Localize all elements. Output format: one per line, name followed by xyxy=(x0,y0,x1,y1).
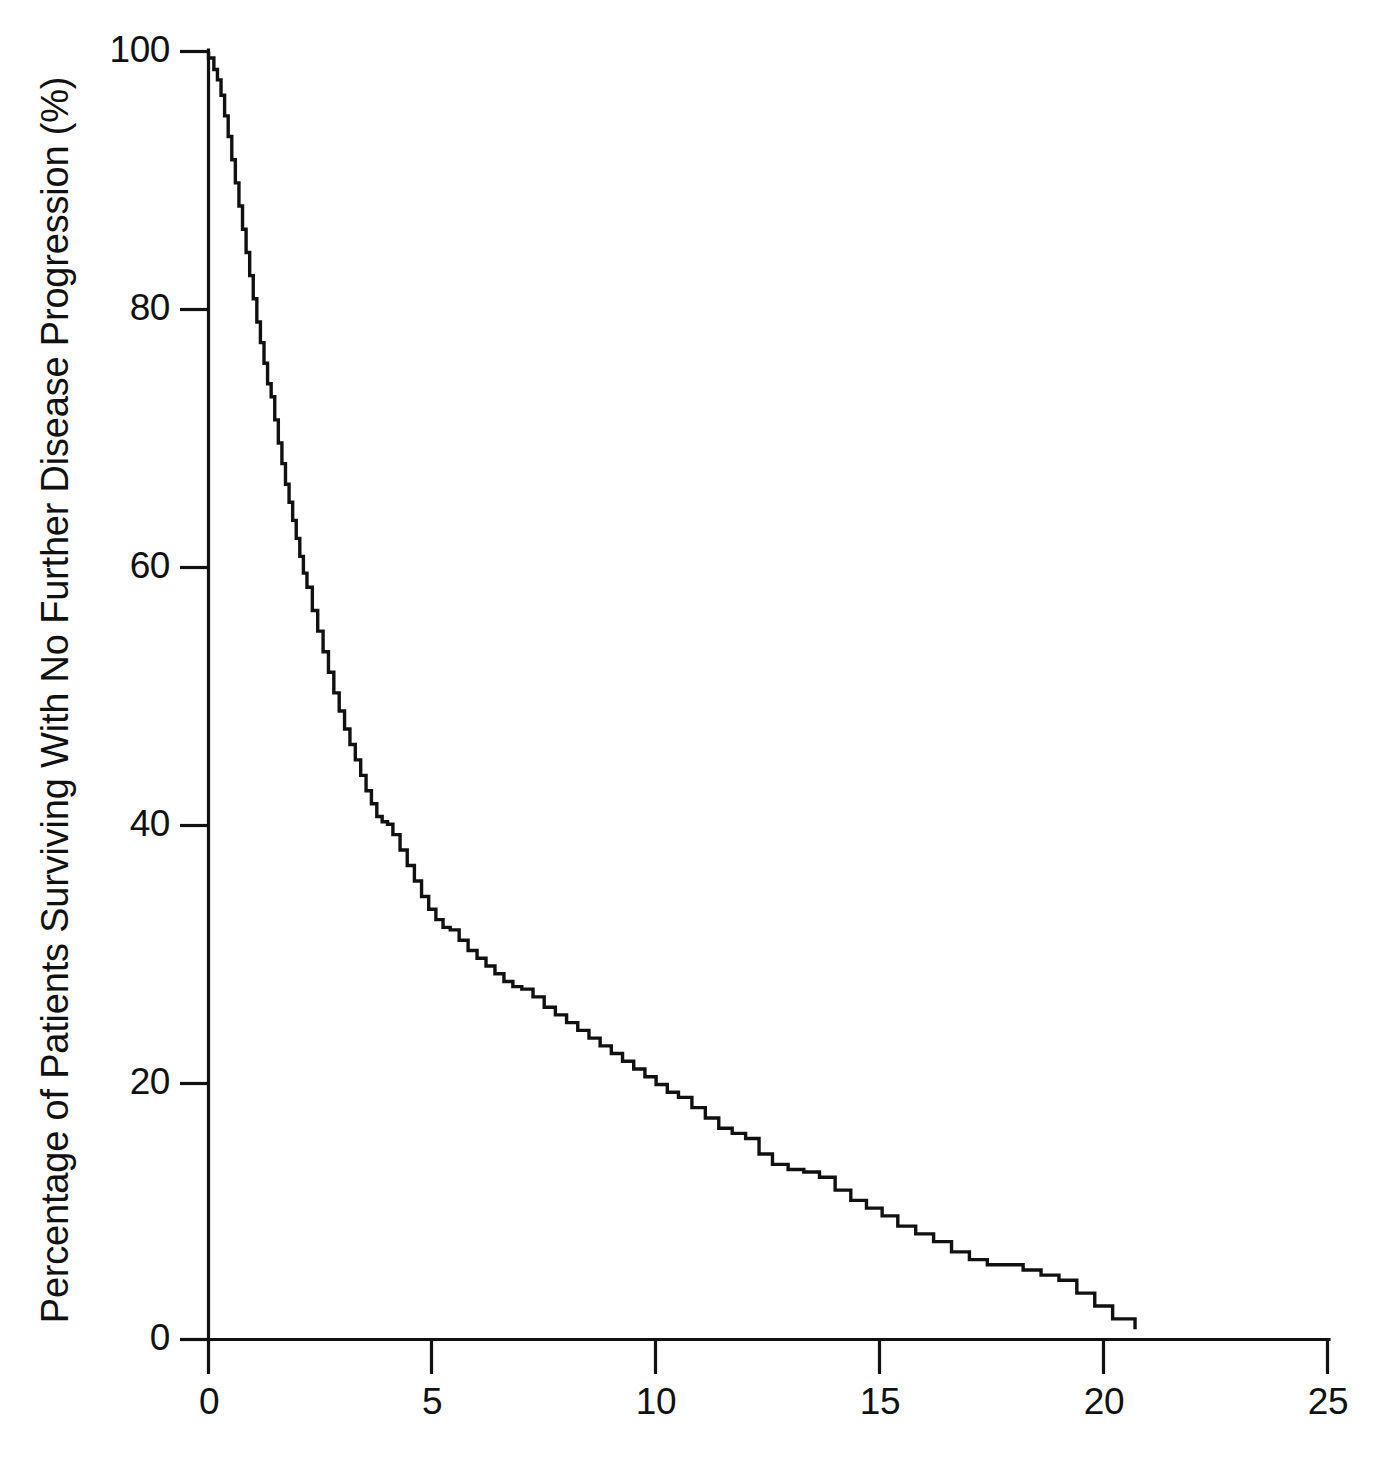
y-tick-label-0: 0 xyxy=(150,1317,170,1358)
x-axis-tick-labels: 0 5 10 15 20 25 xyxy=(199,1381,1348,1422)
x-tick-label-15: 15 xyxy=(860,1381,900,1422)
y-axis-ticks xyxy=(180,52,209,1340)
x-tick-label-20: 20 xyxy=(1084,1381,1124,1422)
x-tick-label-25: 25 xyxy=(1308,1381,1348,1422)
y-tick-label-60: 60 xyxy=(130,545,170,586)
y-tick-label-100: 100 xyxy=(109,29,170,70)
y-axis-title: Percentage of Patients Surviving With No… xyxy=(34,77,76,1323)
kaplan-meier-chart: Percentage of Patients Surviving With No… xyxy=(0,0,1374,1460)
x-tick-label-5: 5 xyxy=(422,1381,442,1422)
y-tick-label-40: 40 xyxy=(130,803,170,844)
y-tick-label-20: 20 xyxy=(130,1061,170,1102)
figure-canvas: Percentage of Patients Surviving With No… xyxy=(0,0,1374,1460)
survival-curve xyxy=(209,52,1136,1330)
x-axis-ticks xyxy=(209,1338,1328,1374)
y-tick-label-80: 80 xyxy=(130,287,170,328)
x-tick-label-10: 10 xyxy=(636,1381,676,1422)
y-axis-tick-labels: 100 80 60 40 20 0 xyxy=(109,29,170,1358)
x-tick-label-0: 0 xyxy=(199,1381,219,1422)
